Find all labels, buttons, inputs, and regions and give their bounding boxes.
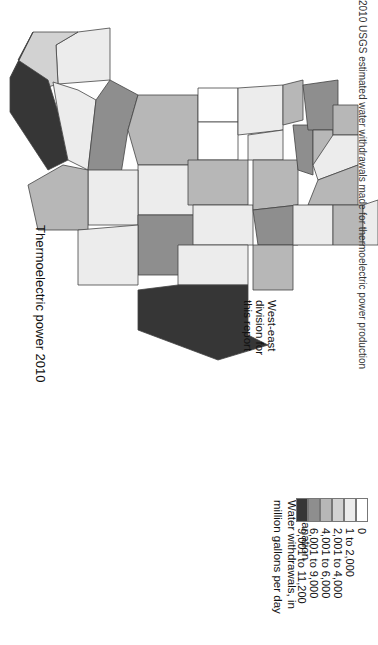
legend-swatch: [356, 498, 368, 522]
figure-caption: 2010 USGS estimated water withdrawals ma…: [357, 0, 368, 369]
legend-item: 4,001 to 6,000: [320, 498, 332, 604]
state-south-dakota: [198, 122, 238, 160]
state-iowa: [248, 130, 283, 160]
west-east-division-label: West-east division for this report: [242, 300, 278, 355]
state-mississippi: [293, 205, 333, 245]
state-utah: [88, 170, 138, 225]
state-ohio: [333, 105, 358, 135]
state-louisiana: [253, 245, 293, 290]
legend-item: 6,001 to 9,000: [308, 498, 320, 604]
legend-swatch: [320, 498, 332, 522]
map-title: Thermoelectric power 2010: [33, 225, 48, 383]
legend-swatch: [332, 498, 344, 522]
explanation-subheading-2: million gallons per day: [271, 500, 285, 614]
state-kansas: [193, 205, 253, 245]
state-minnesota: [238, 85, 283, 135]
legend-item: 2,001 to 4,000: [332, 498, 344, 604]
state-oklahoma: [178, 245, 248, 285]
legend-item: 0: [356, 498, 368, 604]
state-arkansas: [253, 205, 298, 245]
legend: 0 1 to 2,000 2,001 to 4,000 4,001 to 6,0…: [296, 498, 368, 604]
state-new-mexico: [78, 225, 138, 285]
state-north-dakota: [198, 88, 238, 122]
state-arizona: [28, 165, 88, 230]
state-wisconsin: [283, 80, 303, 125]
state-nebraska: [188, 160, 248, 205]
legend-item: 9,001 to 11,200: [296, 498, 308, 604]
legend-swatch: [344, 498, 356, 522]
state-montana: [128, 95, 198, 165]
legend-swatch: [308, 498, 320, 522]
state-missouri: [253, 160, 298, 210]
legend-item: 1 to 2,000: [344, 498, 356, 604]
rotated-figure: Thermoelectric power 2010 2010 USGS esti…: [0, 0, 378, 645]
legend-swatch: [296, 498, 308, 522]
